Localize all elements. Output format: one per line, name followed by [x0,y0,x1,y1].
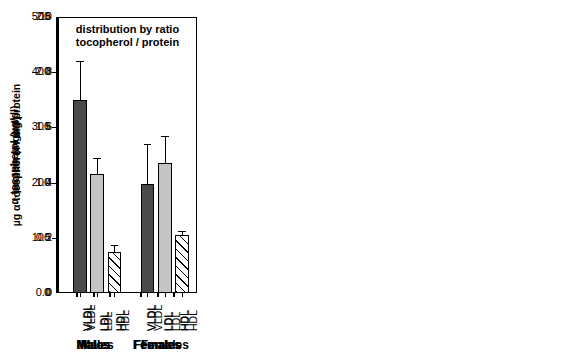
y-tick-mark [54,183,59,184]
y-tick-label: 10 [18,10,52,22]
x-tick-label-hdl: HDL [119,310,131,331]
x-tick-mark [165,293,166,297]
error-bar [108,245,122,252]
bar-males-vldl [73,100,87,293]
error-bar-cap [144,144,152,145]
x-tick-mark [158,293,159,297]
group-label-females: Females [125,338,205,352]
x-tick-label-ldl: LDL [170,312,182,331]
x-tick-label-vldl: VLDL [152,305,164,331]
bar-females-ldl [158,163,172,293]
y-tick-label: 2 [18,231,52,243]
y-axis-label: µg α-tocopherol / mg protein [10,84,22,227]
error-bar-line [80,61,81,100]
error-bar-line [97,158,98,175]
panel-title-line: tocopherol / protein [64,36,191,49]
y-tick-label: 4 [18,176,52,188]
chart-panel-2: 0246810µg α-tocopherol / mg proteindistr… [371,0,573,352]
x-tick-label-vldl: VLDL [85,305,97,331]
y-tick-mark [54,238,59,239]
x-tick-mark [80,293,81,297]
error-bar-line [165,136,166,164]
x-tick-mark [174,293,175,297]
x-tick-mark [77,293,78,297]
error-bar [141,144,155,184]
panel-title: distribution by ratiotocopherol / protei… [64,23,191,48]
y-tick-mark [54,127,59,128]
error-bar-line [114,245,115,252]
x-tick-label-ldl: LDL [102,312,114,331]
error-bar [73,61,87,100]
error-bar-line [147,144,148,184]
x-tick-mark [182,293,183,297]
error-bar-cap [76,61,84,62]
x-tick-mark [147,293,148,297]
error-bar-cap [111,245,119,246]
error-bar [175,231,189,235]
bar-males-hdl [108,252,122,293]
error-bar-cap [178,231,186,232]
x-tick-mark [114,293,115,297]
y-tick-label: 6 [18,120,52,132]
x-tick-mark [141,293,142,297]
x-tick-label-hdl: HDL [187,310,199,331]
bar-males-ldl [90,174,104,293]
figure-canvas: 0100200300400500α-tocopherol (µg/dl)α-to… [0,0,573,352]
x-tick-mark [94,293,95,297]
error-bar-cap [93,158,101,159]
bar-females-vldl [141,184,155,293]
y-tick-label: 0 [18,286,52,298]
error-bar [90,158,104,175]
x-tick-mark [97,293,98,297]
y-tick-mark [54,72,59,73]
bar-females-hdl [175,235,189,293]
error-bar-cap [161,136,169,137]
y-tick-label: 8 [18,65,52,77]
error-bar [158,136,172,164]
panel-title-line: distribution by ratio [64,23,191,36]
chart-panel-1: 0.00.51.01.52.02.5protein (mg/ml)protein… [186,0,376,352]
x-tick-mark [110,293,111,297]
